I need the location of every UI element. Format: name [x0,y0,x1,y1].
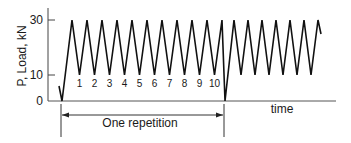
cycle-label: 4 [122,78,128,89]
cycle-labels: 1 2 3 4 5 6 7 8 9 10 [77,78,221,89]
x-axis-label: time [271,102,294,116]
load-spectrum-diagram: 30 10 0 P, Load, kN 1 2 3 4 5 6 7 8 9 10… [0,0,351,143]
cycle-label: 5 [137,78,143,89]
tick-label-0: 0 [36,94,43,108]
tick-label-10: 10 [30,68,44,82]
cycle-label: 8 [182,78,188,89]
cycle-label: 7 [167,78,173,89]
cycle-label: 3 [107,78,113,89]
cycle-label: 6 [152,78,158,89]
tick-label-30: 30 [30,13,44,27]
arrowhead-right-icon [216,113,223,118]
cycle-label: 10 [209,78,221,89]
load-waveform [59,20,321,101]
repetition-label: One repetition [102,116,177,130]
y-axis-label: P, Load, kN [15,25,29,86]
cycle-label: 1 [77,78,83,89]
cycle-label: 2 [92,78,98,89]
cycle-label: 9 [197,78,203,89]
arrowhead-left-icon [62,113,69,118]
